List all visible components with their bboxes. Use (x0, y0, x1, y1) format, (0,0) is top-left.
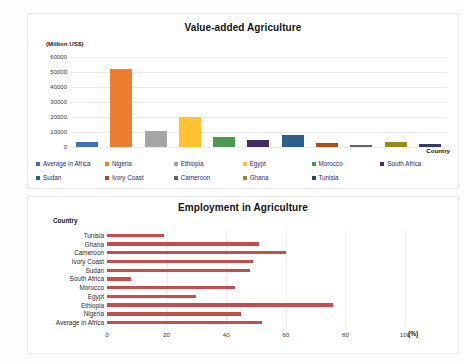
bar[interactable] (107, 234, 164, 237)
bar[interactable] (316, 143, 338, 147)
category-label: Ghana (85, 241, 104, 248)
bar[interactable] (385, 142, 407, 147)
y-axis-unit-label: (Million US$) (46, 40, 83, 47)
y-axis-tick-label: 0 (64, 144, 67, 150)
bar-row[interactable]: Egypt (107, 292, 405, 301)
legend-swatch-icon (105, 162, 109, 166)
category-label: Ivory Coast (72, 258, 104, 265)
legend-item[interactable]: Cameroon (174, 174, 243, 181)
bar[interactable] (282, 135, 304, 147)
slide-canvas: Value-added Agriculture (Million US$) 60… (0, 0, 464, 364)
category-label: Morocco (79, 284, 104, 291)
bar[interactable] (247, 140, 269, 147)
legend-item-label: Morocco (319, 160, 343, 167)
legend-swatch-icon (174, 176, 178, 180)
legend-swatch-icon (243, 162, 247, 166)
bar-row[interactable]: Ghana (107, 240, 405, 249)
legend-swatch-icon (36, 162, 40, 166)
legend-item-label: Nigeria (112, 160, 132, 167)
category-label: South Africa (70, 275, 104, 282)
bar-row[interactable]: Nigeria (107, 310, 405, 319)
legend-item-label: Average in Africa (43, 160, 91, 167)
bar-row[interactable]: Sudan (107, 266, 405, 275)
y-axis-tick-label: 40000 (50, 84, 67, 90)
legend-item[interactable]: Ghana (243, 174, 312, 181)
bar[interactable] (107, 242, 259, 245)
bar[interactable] (107, 251, 286, 254)
legend-item[interactable]: Ivory Coast (105, 174, 174, 181)
plot-area-value-added: 6000050000400003000020000100000 (70, 57, 447, 147)
legend-item-label: Sudan (43, 174, 61, 181)
value-added-agriculture-chart[interactable]: Value-added Agriculture (Million US$) 60… (27, 13, 459, 189)
legend-item[interactable]: Morocco (312, 160, 381, 167)
legend-item-label: Ivory Coast (112, 174, 144, 181)
legend-swatch-icon (243, 176, 247, 180)
x-axis-unit-percent: (%) (408, 330, 418, 337)
category-label: Ethiopia (81, 302, 104, 309)
x-axis-tick-label: 40 (223, 331, 230, 338)
y-axis-tick-label: 10000 (50, 129, 67, 135)
category-label: Tunisia (84, 232, 104, 239)
bar[interactable] (110, 69, 132, 147)
legend-swatch-icon (105, 176, 109, 180)
legend-item[interactable]: Nigeria (105, 160, 174, 167)
y-axis-title-country: Country (53, 217, 78, 224)
y-axis-tick-label: 30000 (50, 99, 67, 105)
chart-title-value-added: Value-added Agriculture (28, 22, 458, 33)
x-axis-tick-label: 80 (342, 331, 349, 338)
bar[interactable] (350, 145, 372, 147)
x-axis-title-country: Country (426, 147, 450, 154)
bar[interactable] (145, 131, 167, 148)
legend-item[interactable]: Ethiopia (174, 160, 243, 167)
bar[interactable] (76, 142, 98, 147)
chart-title-employment: Employment in Agriculture (28, 202, 458, 213)
category-label: Cameroon (74, 249, 104, 256)
category-label: Average in Africa (56, 319, 104, 326)
legend-item-label: Tunisia (319, 174, 339, 181)
bar[interactable] (107, 321, 262, 324)
bar-row[interactable]: Average in Africa (107, 318, 405, 327)
chart-legend[interactable]: Average in AfricaNigeriaEthiopiaEgyptMor… (36, 160, 451, 188)
employment-in-agriculture-chart[interactable]: Employment in Agriculture Country 020406… (27, 196, 459, 354)
legend-swatch-icon (312, 176, 316, 180)
legend-item-label: Ethiopia (181, 160, 204, 167)
bar[interactable] (107, 269, 250, 272)
x-axis-tick-label: 0 (105, 331, 108, 338)
bar[interactable] (107, 312, 241, 315)
bar[interactable] (107, 295, 196, 298)
plot-area-employment: 020406080100TunisiaGhanaCameroonIvory Co… (107, 231, 405, 327)
gridline: 100 (405, 231, 406, 327)
bar[interactable] (107, 260, 253, 263)
legend-item[interactable]: South Africa (380, 160, 449, 167)
legend-item[interactable]: Average in Africa (36, 160, 105, 167)
legend-item-label: Cameroon (181, 174, 210, 181)
legend-item[interactable]: Egypt (243, 160, 312, 167)
legend-item-label: Ghana (250, 174, 269, 181)
bar[interactable] (107, 286, 235, 289)
bar-series (70, 57, 447, 147)
y-axis-tick-label: 50000 (50, 69, 67, 75)
bar-row[interactable]: Tunisia (107, 231, 405, 240)
category-label: Sudan (86, 267, 104, 274)
x-axis-tick-label: 20 (163, 331, 170, 338)
bar-row[interactable]: Ethiopia (107, 301, 405, 310)
bar[interactable] (213, 137, 235, 148)
bar[interactable] (179, 117, 201, 147)
x-axis-tick-label: 60 (282, 331, 289, 338)
legend-swatch-icon (380, 162, 384, 166)
legend-swatch-icon (36, 176, 40, 180)
y-axis-tick-label: 60000 (50, 54, 67, 60)
category-label: Nigeria (84, 310, 104, 317)
gridline: 0 (70, 147, 447, 148)
bar-row[interactable]: South Africa (107, 275, 405, 284)
legend-swatch-icon (312, 162, 316, 166)
bar[interactable] (107, 303, 333, 306)
legend-item-label: South Africa (387, 160, 421, 167)
legend-item[interactable]: Sudan (36, 174, 105, 181)
bar-row[interactable]: Ivory Coast (107, 257, 405, 266)
bar-row[interactable]: Cameroon (107, 248, 405, 257)
legend-item[interactable]: Tunisia (312, 174, 381, 181)
bar-row[interactable]: Morocco (107, 283, 405, 292)
bar[interactable] (107, 277, 131, 280)
legend-item-label: Egypt (250, 160, 266, 167)
